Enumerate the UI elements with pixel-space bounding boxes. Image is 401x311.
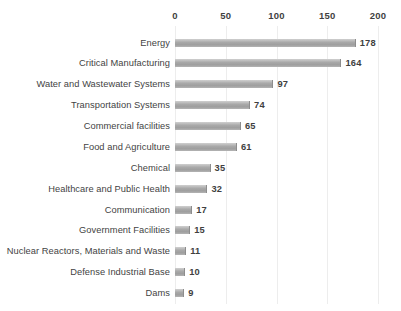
category-label: Water and Wastewater Systems xyxy=(0,76,170,93)
bar-row: Dams9 xyxy=(0,285,401,302)
bar-container: 61 xyxy=(175,139,378,156)
bar-row: Food and Agriculture61 xyxy=(0,139,401,156)
bar-row: Defense Industrial Base10 xyxy=(0,264,401,281)
bar xyxy=(175,122,241,130)
category-label: Communication xyxy=(0,202,170,219)
bar-value-label: 164 xyxy=(345,55,361,72)
bar-container: 10 xyxy=(175,264,378,281)
bar-value-label: 15 xyxy=(194,222,205,239)
bar-value-label: 17 xyxy=(196,202,207,219)
bar-container: 35 xyxy=(175,160,378,177)
bar xyxy=(175,143,237,151)
bar-rows: Energy178Critical Manufacturing164Water … xyxy=(0,0,401,311)
bar-row: Healthcare and Public Health32 xyxy=(0,181,401,198)
bar-value-label: 65 xyxy=(245,118,256,135)
category-label: Chemical xyxy=(0,160,170,177)
bar-container: 97 xyxy=(175,76,378,93)
category-label: Healthcare and Public Health xyxy=(0,181,170,198)
bar-row: Nuclear Reactors, Materials and Waste11 xyxy=(0,243,401,260)
bar xyxy=(175,185,207,193)
category-label: Nuclear Reactors, Materials and Waste xyxy=(0,243,170,260)
category-label: Transportation Systems xyxy=(0,97,170,114)
bar-value-label: 10 xyxy=(189,264,200,281)
bar-row: Transportation Systems74 xyxy=(0,97,401,114)
horizontal-bar-chart: 050100150200 Energy178Critical Manufactu… xyxy=(0,0,401,311)
bar-value-label: 32 xyxy=(211,181,222,198)
bar-row: Government Facilities15 xyxy=(0,222,401,239)
bar xyxy=(175,59,341,67)
category-label: Commercial facilities xyxy=(0,118,170,135)
bar-value-label: 9 xyxy=(188,285,193,302)
bar-value-label: 11 xyxy=(190,243,200,260)
bar-container: 11 xyxy=(175,243,378,260)
bar-row: Communication17 xyxy=(0,202,401,219)
bar-container: 178 xyxy=(175,35,378,52)
bar-value-label: 97 xyxy=(277,76,288,93)
bar xyxy=(175,247,186,255)
bar xyxy=(175,101,250,109)
category-label: Government Facilities xyxy=(0,222,170,239)
bar xyxy=(175,164,211,172)
bar-container: 9 xyxy=(175,285,378,302)
category-label: Food and Agriculture xyxy=(0,139,170,156)
bar-value-label: 35 xyxy=(215,160,226,177)
bar xyxy=(175,289,184,297)
category-label: Defense Industrial Base xyxy=(0,264,170,281)
bar-container: 32 xyxy=(175,181,378,198)
bar-container: 164 xyxy=(175,55,378,72)
bar-container: 15 xyxy=(175,222,378,239)
bar xyxy=(175,268,185,276)
bar xyxy=(175,80,273,88)
bar-row: Chemical35 xyxy=(0,160,401,177)
bar-container: 74 xyxy=(175,97,378,114)
bar-value-label: 74 xyxy=(254,97,265,114)
bar-row: Energy178 xyxy=(0,35,401,52)
bar-row: Critical Manufacturing164 xyxy=(0,55,401,72)
category-label: Dams xyxy=(0,285,170,302)
bar xyxy=(175,226,190,234)
category-label: Energy xyxy=(0,35,170,52)
bar-value-label: 61 xyxy=(241,139,252,156)
bar-value-label: 178 xyxy=(360,35,376,52)
bar-row: Commercial facilities65 xyxy=(0,118,401,135)
bar-row: Water and Wastewater Systems97 xyxy=(0,76,401,93)
bar xyxy=(175,39,356,47)
bar xyxy=(175,206,192,214)
bar-container: 65 xyxy=(175,118,378,135)
category-label: Critical Manufacturing xyxy=(0,55,170,72)
bar-container: 17 xyxy=(175,202,378,219)
